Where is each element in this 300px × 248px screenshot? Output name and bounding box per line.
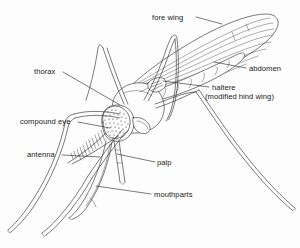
palp-tip: [120, 182, 125, 184]
antenna-plume: [101, 130, 103, 136]
antenna-plume: [83, 145, 85, 151]
label-haltere-sub: (modified hind wing): [205, 92, 274, 101]
antenna-plume: [103, 136, 105, 141]
leader-palp: [117, 154, 155, 162]
leg-mid-lower: [8, 114, 74, 230]
antenna-plume: [100, 139, 102, 144]
leg-hind-tarsus-tip: [292, 208, 295, 210]
label-haltere: haltere: [212, 83, 236, 92]
antenna-plume: [74, 151, 76, 157]
antenna-plume: [85, 151, 87, 156]
leg-fore-lower: [86, 45, 103, 100]
palp-outline: [114, 141, 125, 182]
label-antenna: antenna: [27, 150, 56, 159]
label-palp: palp: [157, 158, 172, 167]
mosquito-anatomy-figure: fore wing abdomen haltere (modified hind…: [0, 0, 300, 248]
antenna-plume: [91, 146, 93, 151]
antenna-plume: [88, 148, 90, 153]
label-mouthparts: mouthparts: [154, 190, 193, 199]
leg-hind-tarsus-2: [199, 90, 295, 208]
stylet-1: [86, 144, 110, 206]
antenna-plume: [92, 138, 94, 144]
leg-mid-lower-2: [11, 118, 75, 232]
palp-part: [114, 141, 125, 184]
antenna-plume: [97, 141, 99, 146]
leg-mid-tarsus-tip: [8, 230, 11, 233]
label-fore-wing: fore wing: [152, 13, 183, 22]
labella: [90, 198, 96, 207]
label-compound-eye: compound eye: [20, 117, 70, 126]
leg-second-lower-2: [46, 178, 92, 235]
antenna-plume: [86, 142, 88, 148]
label-thorax: thorax: [34, 67, 56, 76]
antenna-plume: [89, 140, 91, 146]
leader-fore-wing: [196, 17, 222, 24]
mosquito-diagram: fore wing abdomen haltere (modified hind…: [0, 0, 300, 248]
antenna-plume: [95, 135, 97, 141]
proboscis-tip: [69, 218, 73, 220]
leader-thorax: [63, 72, 120, 105]
antenna-plume: [98, 133, 100, 139]
label-abdomen: abdomen: [249, 64, 281, 73]
antenna-plume: [82, 153, 84, 158]
leader-antenna: [62, 155, 100, 157]
leg-second-tarsus-tip: [42, 233, 46, 236]
antenna-plume: [77, 149, 79, 155]
leader-mouthparts: [96, 186, 151, 194]
antenna-plume: [71, 153, 73, 159]
antenna-plume: [94, 144, 96, 149]
antenna-plume: [80, 147, 82, 153]
